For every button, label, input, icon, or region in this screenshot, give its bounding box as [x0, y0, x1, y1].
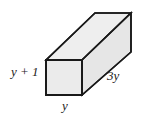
dimension-label-depth: 3y — [107, 69, 119, 82]
rectangular-prism-figure: y + 1 y 3y — [0, 0, 141, 118]
prism-drawing — [0, 0, 141, 118]
prism-front-face — [46, 60, 82, 95]
dimension-label-height: y + 1 — [11, 65, 39, 78]
dimension-label-width: y — [62, 99, 68, 112]
